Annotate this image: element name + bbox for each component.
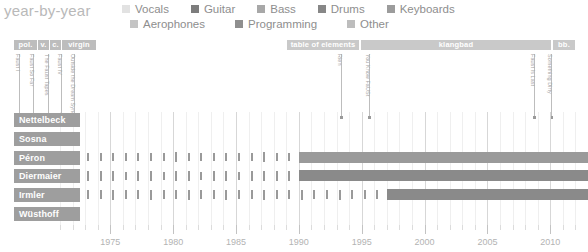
axis-tick: [198, 225, 199, 230]
activity-bar[interactable]: [387, 189, 588, 200]
legend-item-drums[interactable]: Drums: [318, 3, 365, 15]
era-bar[interactable]: c.: [50, 40, 61, 50]
year-tick-bar[interactable]: [150, 190, 152, 200]
year-tick-bar[interactable]: [288, 153, 290, 161]
activity-bar[interactable]: [299, 152, 588, 163]
year-tick-bar[interactable]: [276, 153, 278, 161]
legend-item-keyboards[interactable]: Keyboards: [387, 3, 455, 15]
legend-item-vocals[interactable]: Vocals: [122, 3, 169, 15]
year-tick-bar[interactable]: [125, 190, 127, 199]
year-tick-bar[interactable]: [238, 153, 240, 161]
row-label-péron[interactable]: Péron: [14, 151, 80, 165]
legend-item-bass[interactable]: Bass: [257, 3, 296, 15]
axis-tick: [135, 225, 136, 230]
row-label-irmler[interactable]: Irmler: [14, 188, 80, 202]
year-tick-bar[interactable]: [263, 190, 265, 200]
year-tick-bar[interactable]: [251, 190, 253, 199]
year-tick-bar[interactable]: [87, 153, 89, 162]
axis-tick: [525, 225, 526, 230]
axis-tick: [563, 225, 564, 230]
year-tick-bar[interactable]: [213, 153, 215, 162]
year-tick-bar[interactable]: [376, 190, 378, 199]
year-tick-bar[interactable]: [100, 171, 102, 181]
year-tick-bar[interactable]: [163, 172, 165, 181]
year-tick-bar[interactable]: [125, 172, 127, 181]
year-tick-bar[interactable]: [339, 190, 341, 200]
year-tick-bar[interactable]: [225, 190, 227, 200]
year-tick-bar[interactable]: [163, 153, 165, 161]
year-tick-bar[interactable]: [150, 153, 152, 162]
gridline: [249, 112, 250, 225]
year-tick-bar[interactable]: [100, 190, 102, 199]
era-bar[interactable]: virgin: [62, 40, 96, 50]
year-tick-bar[interactable]: [163, 190, 165, 199]
year-tick-bar[interactable]: [112, 153, 114, 162]
year-tick-bar[interactable]: [225, 171, 227, 180]
year-tick-bar[interactable]: [200, 172, 202, 181]
year-tick-bar[interactable]: [137, 153, 139, 161]
axis-tick: [148, 225, 149, 230]
year-tick-bar[interactable]: [188, 153, 190, 161]
era-bar[interactable]: table of elements: [287, 40, 359, 50]
year-tick-bar[interactable]: [251, 153, 253, 162]
year-tick-bar[interactable]: [364, 190, 366, 199]
year-tick-bar[interactable]: [87, 190, 89, 199]
year-tick-bar[interactable]: [137, 190, 139, 199]
year-tick-bar[interactable]: [200, 190, 202, 199]
axis-tick: [286, 225, 287, 230]
year-tick-bar[interactable]: [175, 190, 177, 199]
year-tick-bar[interactable]: [313, 190, 315, 199]
year-tick-bar[interactable]: [188, 190, 190, 200]
activity-bar[interactable]: [299, 170, 588, 181]
row-label-nettelbeck[interactable]: Nettelbeck: [14, 113, 80, 127]
row-label-sosna[interactable]: Sosna: [14, 132, 80, 146]
axis-tick: [500, 225, 501, 230]
axis-tick-label: 1975: [100, 237, 120, 247]
era-bar[interactable]: v.: [38, 40, 49, 50]
year-tick-bar[interactable]: [326, 190, 328, 199]
axis-tick-label: 2010: [540, 237, 560, 247]
year-tick-bar[interactable]: [288, 171, 290, 180]
year-tick-bar[interactable]: [225, 153, 227, 161]
year-tick-bar[interactable]: [238, 190, 240, 199]
year-tick-bar[interactable]: [263, 171, 265, 180]
year-tick-bar[interactable]: [276, 190, 278, 199]
legend-item-aerophones[interactable]: Aerophones: [130, 18, 205, 30]
year-tick-bar[interactable]: [137, 171, 139, 180]
axis-tick: [462, 225, 463, 230]
year-tick-bar[interactable]: [351, 190, 353, 199]
year-tick-bar[interactable]: [288, 190, 290, 199]
gridline: [462, 112, 463, 225]
legend-swatch-icon: [130, 20, 138, 28]
axis-tick: [223, 225, 224, 230]
year-tick-bar[interactable]: [175, 171, 177, 181]
legend-item-other[interactable]: Other: [347, 18, 389, 30]
axis-tick: [324, 225, 325, 230]
year-tick-bar[interactable]: [276, 171, 278, 181]
era-bar[interactable]: bb.: [553, 40, 575, 50]
era-bar[interactable]: klangbad: [361, 40, 551, 50]
year-tick-bar[interactable]: [200, 153, 202, 161]
year-tick-bar[interactable]: [125, 153, 127, 161]
legend-item-programming[interactable]: Programming: [235, 18, 317, 30]
axis-tick: [123, 225, 124, 230]
year-tick-bar[interactable]: [112, 190, 114, 200]
year-tick-bar[interactable]: [112, 171, 114, 180]
year-tick-bar[interactable]: [213, 190, 215, 199]
year-tick-bar[interactable]: [87, 171, 89, 180]
era-bar[interactable]: pol.: [14, 40, 37, 50]
year-tick-bar[interactable]: [251, 171, 253, 181]
row-label-wüsthoff[interactable]: Wüsthoff: [14, 207, 80, 221]
axis-tick: [261, 225, 262, 230]
row-label-diermaier[interactable]: Diermaier: [14, 169, 80, 183]
legend-item-guitar[interactable]: Guitar: [191, 3, 235, 15]
year-tick-bar[interactable]: [238, 172, 240, 181]
year-tick-bar[interactable]: [213, 171, 215, 181]
year-tick-bar[interactable]: [263, 152, 265, 161]
year-tick-bar[interactable]: [150, 171, 152, 181]
year-tick-bar[interactable]: [175, 152, 177, 161]
axis-tick-label: 2000: [415, 237, 435, 247]
year-tick-bar[interactable]: [188, 171, 190, 180]
year-tick-bar[interactable]: [301, 190, 303, 200]
year-tick-bar[interactable]: [100, 153, 102, 161]
